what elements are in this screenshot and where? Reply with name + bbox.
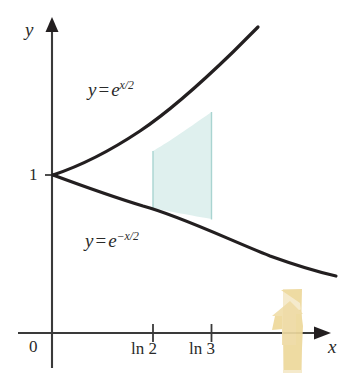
upper-eq-operator: = [96,79,111,100]
y-tick-label-one: 1 [29,166,38,183]
graph-svg [0,0,351,385]
origin-label: 0 [29,338,38,355]
x-axis-label: x [328,337,336,356]
lower-eq-base: e [108,230,116,251]
x-tick-label-ln3: ln 3 [189,340,215,357]
graph-figure: y x 1 0 ln 2 ln 3 y=ex/2 y=e−x/2 [0,0,351,385]
y-axis-label: y [25,20,33,39]
upper-eq-exponent: x/2 [120,79,134,92]
lower-curve-equation: y=e−x/2 [85,231,139,250]
upper-curve-equation: y=ex/2 [88,80,134,99]
x-tick-label-ln2: ln 2 [131,340,157,357]
lower-eq-exponent: −x/2 [117,230,139,243]
lower-eq-operator: = [93,230,108,251]
upper-eq-base: e [111,79,119,100]
